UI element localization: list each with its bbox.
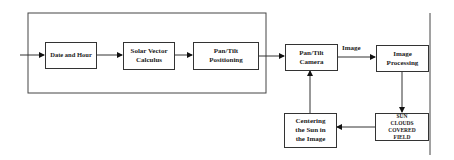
node-label: Pan/Tilt Camera <box>296 49 327 67</box>
node-date-hour: Date and Hour <box>45 42 97 69</box>
node-label: Image Processing <box>383 50 422 68</box>
node-label: Centering the Sun in the Image <box>291 117 330 143</box>
node-centering: Centering the Sun in the Image <box>284 113 337 148</box>
node-label: SUN CLOUDS COVERED FIELD <box>385 113 419 141</box>
node-label: Solar Vector Calculus <box>130 47 168 65</box>
node-solar-vector: Solar Vector Calculus <box>123 42 175 70</box>
node-image-processing: Image Processing <box>376 45 429 72</box>
node-pan-tilt-positioning: Pan/Tilt Positioning <box>193 42 259 70</box>
node-label: Date and Hour <box>50 51 92 59</box>
edge-label-image: Image <box>342 44 361 52</box>
node-sun-clouds: SUN CLOUDS COVERED FIELD <box>375 113 429 141</box>
node-label: Pan/Tilt Positioning <box>208 47 244 65</box>
node-pan-tilt-camera: Pan/Tilt Camera <box>285 44 338 71</box>
